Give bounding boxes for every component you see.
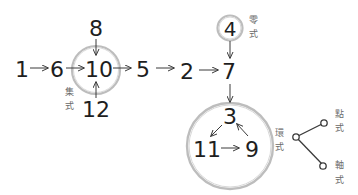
label-zero-2: 式 <box>249 28 258 39</box>
branch-point-node <box>321 120 327 126</box>
node-2: 2 <box>180 59 194 84</box>
arrow-9-3 <box>237 124 248 136</box>
branch-root-node <box>293 134 299 140</box>
label-cycle-1: 環 <box>275 128 284 138</box>
edges <box>30 39 248 148</box>
label-converging-2: 式 <box>65 100 74 111</box>
branch-icon <box>293 120 327 169</box>
node-4: 4 <box>224 17 237 41</box>
label-zero-1: 零 <box>249 15 258 25</box>
node-7: 7 <box>222 59 236 84</box>
node-8: 8 <box>89 16 103 41</box>
node-10: 10 <box>85 57 113 82</box>
node-9: 9 <box>245 137 259 162</box>
node-3: 3 <box>223 104 237 129</box>
node-6: 6 <box>50 57 64 82</box>
label-axis-2: 式 <box>335 174 344 185</box>
node-11: 11 <box>193 137 221 162</box>
flow-diagram: 1 6 10 8 12 5 2 7 4 3 11 9 集 式 零 式 環 式 點… <box>0 0 358 195</box>
label-axis-1: 軸 <box>335 159 344 170</box>
label-converging-1: 集 <box>65 86 74 97</box>
node-12: 12 <box>82 97 110 122</box>
arrow-3-11 <box>211 125 222 136</box>
label-point-1: 點 <box>335 108 344 119</box>
label-cycle-2: 式 <box>275 141 284 152</box>
branch-axis-node <box>320 163 326 169</box>
node-5: 5 <box>136 57 150 82</box>
node-1: 1 <box>15 57 29 82</box>
label-point-2: 式 <box>335 122 344 133</box>
